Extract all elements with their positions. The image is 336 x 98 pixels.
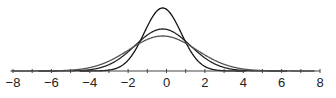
curve-narrow: [80, 8, 246, 71]
x-tick-label: 0: [163, 75, 170, 90]
x-tick-label: 6: [278, 75, 285, 90]
x-tick-label: −2: [121, 75, 136, 90]
x-tick-label: −8: [6, 75, 21, 90]
x-tick-label: 2: [201, 75, 208, 90]
density-chart: −8−6−4−202468: [0, 0, 336, 98]
x-tick-label: −6: [44, 75, 59, 90]
x-tick-label: 4: [240, 75, 247, 90]
x-axis-tick-labels: −8−6−4−202468: [6, 75, 324, 90]
curve-wide: [11, 36, 315, 71]
curve-medium: [38, 29, 287, 71]
x-tick-label: 8: [316, 75, 323, 90]
x-tick-label: −4: [82, 75, 97, 90]
density-curves: [11, 8, 315, 71]
